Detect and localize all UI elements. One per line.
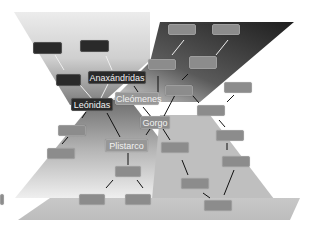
node-unlabeled[interactable] bbox=[216, 130, 244, 141]
node-unlabeled[interactable] bbox=[33, 42, 62, 54]
node-unlabeled[interactable] bbox=[125, 194, 151, 205]
node-unlabeled[interactable] bbox=[197, 105, 225, 116]
node-unlabeled[interactable] bbox=[0, 194, 4, 205]
node-unlabeled[interactable] bbox=[80, 40, 109, 52]
node-unlabeled[interactable] bbox=[181, 178, 209, 189]
node-gorgo[interactable]: Gorgo bbox=[140, 116, 170, 129]
node-unlabeled[interactable] bbox=[224, 82, 252, 93]
diagram-canvas: Anaxándridas Leónidas Cleómenes Gorgo Pl… bbox=[0, 0, 311, 235]
node-unlabeled[interactable] bbox=[58, 125, 86, 136]
node-unlabeled[interactable] bbox=[168, 24, 196, 35]
node-unlabeled[interactable] bbox=[161, 142, 189, 153]
node-leonidas[interactable]: Leónidas bbox=[71, 98, 113, 111]
node-unlabeled[interactable] bbox=[56, 74, 81, 86]
node-unlabeled[interactable] bbox=[204, 200, 232, 211]
node-unlabeled[interactable] bbox=[189, 56, 217, 69]
node-unlabeled[interactable] bbox=[222, 156, 250, 167]
node-unlabeled[interactable] bbox=[212, 24, 240, 35]
node-cleomenes[interactable]: Cleómenes bbox=[115, 92, 159, 105]
node-anaxandridas[interactable]: Anaxándridas bbox=[88, 71, 146, 84]
node-unlabeled[interactable] bbox=[115, 166, 141, 177]
node-unlabeled[interactable] bbox=[79, 194, 105, 205]
node-plistarco[interactable]: Plistarco bbox=[105, 139, 148, 152]
bottom-band bbox=[18, 198, 300, 220]
node-unlabeled[interactable] bbox=[165, 85, 193, 96]
node-unlabeled[interactable] bbox=[47, 148, 75, 159]
node-unlabeled[interactable] bbox=[148, 59, 176, 70]
